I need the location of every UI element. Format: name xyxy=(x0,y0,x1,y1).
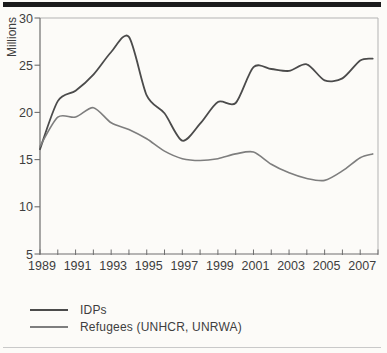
x-tick-label: 1991 xyxy=(64,259,92,273)
y-tick-label: 15 xyxy=(19,153,33,167)
bottom-rule xyxy=(3,347,381,348)
x-tick-label: 1999 xyxy=(206,259,234,273)
y-axis-title: Millions xyxy=(5,17,19,57)
x-tick-label: 1989 xyxy=(28,259,56,273)
x-tick-label: 2005 xyxy=(313,259,341,273)
legend-label-refugees: Refugees (UNHCR, UNRWA) xyxy=(80,320,242,334)
idps-line-swatch xyxy=(30,309,68,311)
legend-label-idps: IDPs xyxy=(80,303,107,317)
x-tick-label: 2003 xyxy=(277,259,305,273)
line-chart: 5101520253019891991199319951997199920012… xyxy=(0,0,387,353)
x-tick-label: 1993 xyxy=(99,259,127,273)
x-tick-label: 2001 xyxy=(242,259,270,273)
x-tick-label: 1995 xyxy=(135,259,163,273)
plot-frame xyxy=(40,18,378,254)
refugees-line-swatch xyxy=(30,326,68,328)
y-tick-label: 30 xyxy=(19,12,33,26)
y-tick-label: 25 xyxy=(19,59,33,73)
y-tick-label: 20 xyxy=(19,106,33,120)
y-tick-label: 10 xyxy=(19,200,33,214)
x-tick-label: 1997 xyxy=(170,259,198,273)
line-idps xyxy=(40,35,373,149)
line-refugees xyxy=(40,108,373,181)
axes xyxy=(40,18,378,254)
x-tick-label: 2007 xyxy=(348,259,376,273)
legend-item-idps: IDPs xyxy=(30,302,242,318)
legend-item-refugees: Refugees (UNHCR, UNRWA) xyxy=(30,319,242,335)
legend: IDPs Refugees (UNHCR, UNRWA) xyxy=(30,302,242,336)
